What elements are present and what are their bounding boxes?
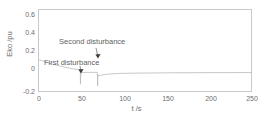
- arrow-first-disturbance: [78, 66, 83, 74]
- chart-figure: 0.6 0.4 0.2 0 -0.2 0 50 100 150 200 250 …: [0, 0, 273, 119]
- arrow-second-disturbance: [95, 48, 100, 59]
- annotation-arrow-layer: [0, 0, 273, 119]
